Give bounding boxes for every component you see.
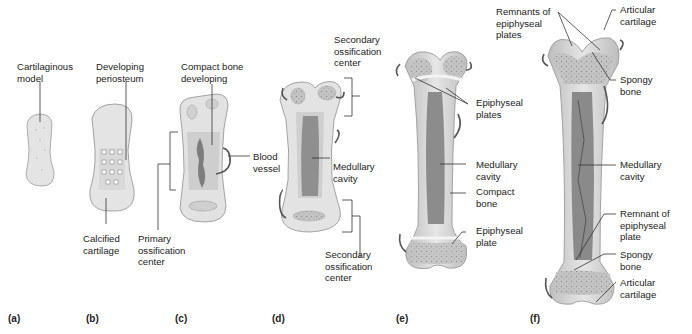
panel-letter-a: (a)	[8, 313, 20, 324]
bone-f	[543, 38, 623, 304]
panel-letter-f: (f)	[530, 313, 540, 324]
label-epiphyseal-plate: Epiphyseal plate	[476, 225, 523, 248]
label-secondary-ossification-center-top: Secondary ossification center	[334, 34, 381, 69]
label-calcified-cartilage: Calcified cartilage	[83, 233, 120, 256]
bone-d	[280, 82, 344, 232]
label-compact-bone: Compact bone	[476, 186, 514, 209]
label-medullary-cavity-f: Medullary cavity	[620, 159, 662, 182]
label-compact-bone-developing: Compact bone developing	[181, 61, 243, 84]
bone-development-figure: Cartilaginous model Developing periosteu…	[0, 0, 692, 334]
bone-b	[90, 104, 134, 211]
label-medullary-cavity-d: Medullary cavity	[333, 161, 375, 184]
label-cartilaginous-model: Cartilaginous model	[17, 61, 73, 84]
label-spongy-bone-top: Spongy bone	[620, 74, 653, 97]
label-primary-ossification-center: Primary ossification center	[138, 233, 185, 268]
bone-c	[180, 94, 230, 222]
label-secondary-ossification-center-bottom: Secondary ossification center	[325, 249, 372, 284]
label-articular-cartilage-bottom: Articular cartilage	[620, 277, 656, 300]
panel-letter-d: (d)	[272, 313, 285, 324]
label-remnant-of-epiphyseal-plate: Remnant of epiphyseal plate	[620, 208, 670, 243]
label-medullary-cavity-e: Medullary cavity	[476, 159, 518, 182]
label-epiphyseal-plates: Epiphyseal plates	[476, 97, 523, 120]
label-spongy-bone-bottom: Spongy bone	[620, 249, 653, 272]
panel-letter-b: (b)	[86, 313, 99, 324]
label-remnants-of-epiphyseal-plates: Remnants of epiphyseal plates	[496, 6, 550, 41]
panel-letter-c: (c)	[175, 313, 187, 324]
label-developing-periosteum: Developing periosteum	[96, 61, 144, 84]
bone-a	[26, 114, 54, 186]
panel-letter-e: (e)	[396, 313, 408, 324]
label-blood-vessel: Blood vessel	[253, 151, 280, 174]
bone-e	[396, 52, 471, 269]
label-articular-cartilage-top: Articular cartilage	[620, 4, 656, 27]
